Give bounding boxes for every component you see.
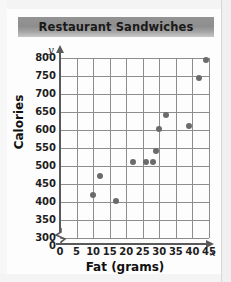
data-point [186, 123, 192, 129]
gridline-horizontal [60, 148, 209, 149]
chart-figure: Restaurant Sandwiches 300350400450500550… [0, 0, 231, 282]
data-point [90, 192, 96, 198]
x-axis-title: Fat (grams) [45, 260, 205, 274]
gridline-horizontal [60, 76, 209, 77]
x-tick-label: 25 [134, 247, 152, 257]
chart-title: Restaurant Sandwiches [39, 20, 194, 34]
data-point [153, 148, 159, 154]
data-point [97, 173, 103, 179]
y-tick-label: 550 [35, 143, 56, 153]
gridline-vertical [209, 58, 210, 238]
gridline-horizontal [60, 220, 209, 221]
gridline-horizontal [60, 238, 209, 239]
data-point [196, 75, 202, 81]
y-axis-break-icon [55, 228, 67, 244]
gridline-horizontal [60, 58, 209, 59]
y-tick-label: 400 [35, 197, 56, 207]
gridline-horizontal [60, 202, 209, 203]
data-point [163, 112, 169, 118]
data-point [143, 159, 149, 165]
y-tick-label: 450 [35, 179, 56, 189]
x-tick-label: 35 [167, 247, 185, 257]
gridline-horizontal [60, 130, 209, 131]
x-tick-label: 0 [51, 247, 69, 257]
y-axis-arrow-icon [56, 45, 64, 53]
data-point [113, 198, 119, 204]
gridline-horizontal [60, 184, 209, 185]
y-axis-line [59, 52, 61, 232]
y-tick-label: 500 [35, 161, 56, 171]
gridline-horizontal [60, 112, 209, 113]
x-tick-label: 15 [101, 247, 119, 257]
data-point [150, 159, 156, 165]
x-axis-line [56, 243, 208, 245]
y-tick-label: 700 [35, 89, 56, 99]
gridline-horizontal [60, 166, 209, 167]
x-tick-label: 20 [117, 247, 135, 257]
y-axis-variable-label: y [48, 44, 54, 55]
page-edge-left [0, 0, 7, 282]
y-tick-label: 650 [35, 107, 56, 117]
x-tick-label: 30 [150, 247, 168, 257]
y-tick-label: 350 [35, 215, 56, 225]
x-tick-label: 40 [183, 247, 201, 257]
data-point [156, 126, 162, 132]
x-tick-label: 10 [84, 247, 102, 257]
plot-area [60, 58, 209, 238]
data-point [130, 159, 136, 165]
data-point [203, 57, 209, 63]
y-tick-label: 600 [35, 125, 56, 135]
x-tick-label: 5 [68, 247, 86, 257]
gridline-horizontal [60, 94, 209, 95]
x-tick-label: 45 [200, 247, 218, 257]
y-tick-label: 750 [35, 71, 56, 81]
y-axis-title: Calories [12, 77, 26, 167]
page-edge-right [221, 0, 231, 282]
